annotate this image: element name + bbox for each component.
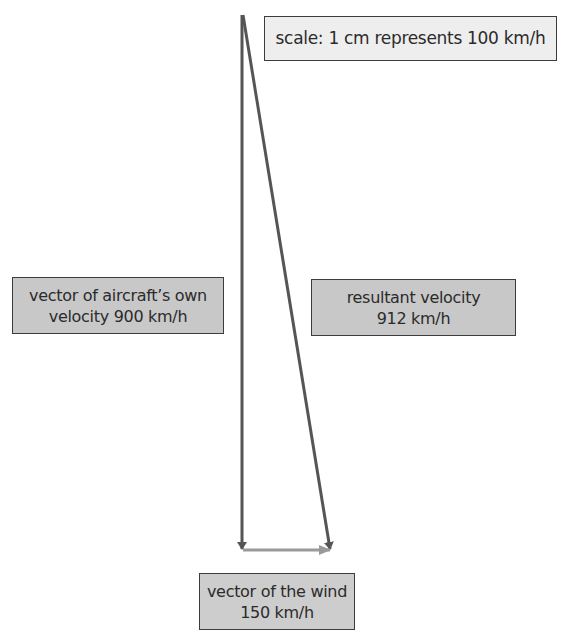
resultant-label-line2: 912 km/h (312, 308, 515, 329)
resultant-velocity-label-box: resultant velocity 912 km/h (311, 279, 516, 336)
wind-label-line1: vector of the wind (200, 581, 354, 602)
scale-label: scale: 1 cm represents 100 km/h (265, 28, 556, 49)
scale-label-box: scale: 1 cm represents 100 km/h (264, 16, 557, 61)
wind-label-line2: 150 km/h (200, 602, 354, 623)
own-velocity-label-line1: vector of aircraft’s own (13, 285, 223, 306)
own-velocity-label-line2: velocity 900 km/h (13, 306, 223, 327)
resultant-label-line1: resultant velocity (312, 287, 515, 308)
wind-label-box: vector of the wind 150 km/h (199, 573, 355, 630)
own-velocity-label-box: vector of aircraft’s own velocity 900 km… (12, 277, 224, 334)
